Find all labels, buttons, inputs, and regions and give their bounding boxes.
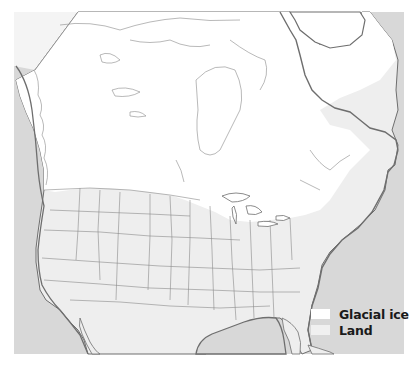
glacial-ice-swatch: [311, 309, 330, 319]
land-swatch: [311, 325, 330, 335]
legend-label: Land: [339, 323, 372, 338]
legend-item-land: Land: [311, 322, 409, 338]
legend-label: Glacial ice: [339, 307, 409, 322]
legend-item-glacial-ice: Glacial ice: [311, 306, 409, 322]
map-legend: Glacial ice Land: [311, 306, 409, 338]
